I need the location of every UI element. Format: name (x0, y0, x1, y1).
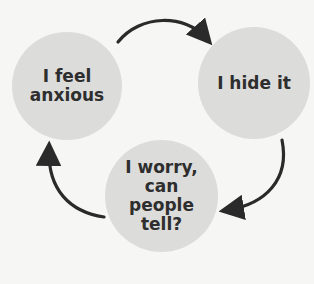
node-label-line: can (125, 177, 198, 196)
arrow-worry-to-anxious (49, 150, 104, 217)
arrow-anxious-to-hide (118, 20, 206, 42)
node-label: I feel anxious (30, 67, 104, 105)
node-label-line: I hide it (217, 74, 291, 93)
node-i-hide-it: I hide it (198, 27, 310, 139)
node-label: I hide it (217, 74, 291, 93)
cycle-diagram: I feel anxious I hide it I worry, can pe… (0, 0, 314, 284)
node-label-line: I worry, (125, 158, 198, 177)
node-label-line: I feel (30, 67, 104, 86)
node-label-line: tell? (125, 215, 198, 234)
node-label: I worry, can people tell? (125, 158, 198, 234)
arrow-hide-to-worry (228, 140, 283, 210)
node-label-line: people (125, 196, 198, 215)
node-label-line: anxious (30, 86, 104, 105)
node-i-feel-anxious: I feel anxious (12, 32, 122, 140)
node-i-worry-can-people-tell: I worry, can people tell? (105, 140, 218, 252)
